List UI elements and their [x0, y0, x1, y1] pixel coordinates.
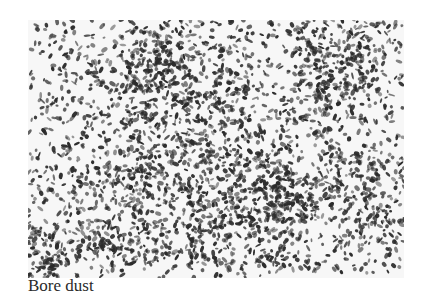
bore-dust-micrograph	[28, 20, 404, 278]
figure-caption: Bore dust	[28, 276, 94, 296]
figure: Bore dust	[0, 0, 426, 298]
particle-field	[28, 20, 404, 278]
